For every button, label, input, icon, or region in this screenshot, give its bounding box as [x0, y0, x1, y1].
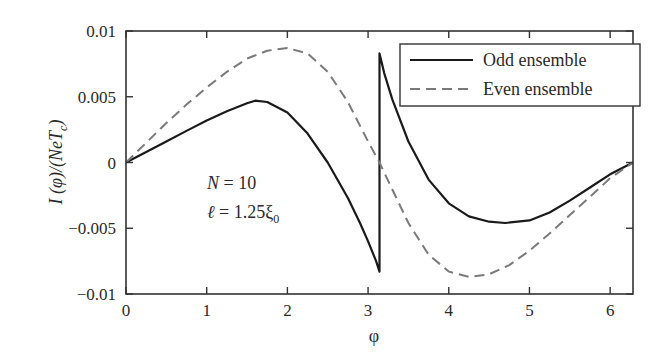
x-tick-label: 3	[364, 301, 373, 320]
y-axis-label-main: I (φ)/(NeT	[46, 129, 67, 205]
chart-canvas: 01234560.010.0050−0.005−0.01 Odd ensembl…	[0, 0, 662, 360]
x-axis-label: φ	[369, 326, 379, 346]
annotation-l-subscript: 0	[273, 212, 279, 226]
x-tick-label: 1	[202, 301, 211, 320]
x-tick-label: 2	[283, 301, 292, 320]
annotation-n-symbol: N	[206, 173, 220, 193]
y-axis-label: I (φ)/(NeTc)	[46, 120, 70, 206]
y-tick-label: 0	[108, 154, 117, 173]
y-tick-label: −0.01	[77, 285, 116, 304]
y-tick-label: −0.005	[68, 219, 116, 238]
legend-odd-label: Odd ensemble	[483, 50, 586, 70]
legend: Odd ensemble Even ensemble	[400, 44, 640, 106]
annotation-n: N = 10	[206, 173, 256, 193]
parameter-annotation: N = 10 ℓ = 1.25ξ0	[206, 173, 279, 226]
y-axis-label-close: )	[46, 120, 67, 127]
annotation-l-value: = 1.25ξ	[215, 202, 274, 222]
x-tick-label: 5	[525, 301, 534, 320]
x-tick-label: 6	[606, 301, 615, 320]
annotation-n-value: = 10	[219, 173, 256, 193]
x-tick-label: 4	[445, 301, 454, 320]
x-tick-label: 0	[122, 301, 131, 320]
y-tick-label: 0.01	[86, 22, 116, 41]
y-axis-label-group: I (φ)/(NeTc)	[46, 120, 70, 206]
y-tick-label: 0.005	[78, 88, 116, 107]
legend-even-label: Even ensemble	[483, 79, 592, 99]
annotation-l: ℓ = 1.25ξ0	[207, 202, 279, 226]
